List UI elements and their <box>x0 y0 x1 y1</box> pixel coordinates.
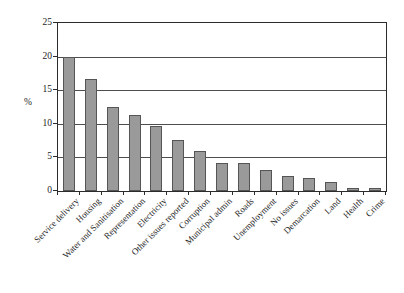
x-tick-mark <box>79 191 80 195</box>
y-tick-label: 10 <box>34 118 52 128</box>
x-tick-mark <box>298 191 299 195</box>
bar <box>85 79 97 191</box>
y-tick-label: 20 <box>34 51 52 61</box>
bar <box>238 163 250 191</box>
x-axis-category-labels: Service deliveryHousingWater and Sanitis… <box>0 190 404 293</box>
x-tick-mark <box>188 191 189 195</box>
bar <box>150 126 162 191</box>
bar <box>303 178 315 191</box>
x-tick-mark <box>254 191 255 195</box>
x-tick-mark <box>232 191 233 195</box>
x-category-label: Health <box>341 196 365 220</box>
y-tick-label: 25 <box>34 17 52 27</box>
x-tick-mark <box>341 191 342 195</box>
x-tick-mark <box>144 191 145 195</box>
x-tick-mark <box>166 191 167 195</box>
y-tick-label: 15 <box>34 84 52 94</box>
x-tick-mark <box>385 191 386 195</box>
y-axis-tick-labels: 0510152025 <box>34 22 52 190</box>
y-tick-mark <box>53 156 57 157</box>
bar <box>63 57 75 191</box>
x-tick-mark <box>101 191 102 195</box>
x-tick-mark <box>363 191 364 195</box>
x-tick-mark <box>319 191 320 195</box>
x-category-label: Land <box>323 196 343 216</box>
x-category-label: Crime <box>364 196 387 219</box>
bar <box>282 176 294 191</box>
plot-area <box>57 22 387 192</box>
x-category-label: Service delivery <box>32 196 81 245</box>
bar <box>129 115 141 191</box>
y-tick-mark <box>53 22 57 23</box>
bar <box>194 151 206 191</box>
x-tick-mark <box>276 191 277 195</box>
x-tick-mark <box>123 191 124 195</box>
x-tick-mark <box>210 191 211 195</box>
y-tick-mark <box>53 56 57 57</box>
bar <box>172 140 184 191</box>
y-tick-mark <box>53 123 57 124</box>
y-tick-label: 5 <box>34 151 52 161</box>
x-tick-mark <box>57 191 58 195</box>
bar <box>260 170 272 192</box>
bar <box>107 107 119 191</box>
bar-chart: 0510152025 % Service deliveryHousingWate… <box>0 0 404 293</box>
y-axis-title: % <box>24 97 32 107</box>
bars-layer <box>58 23 386 191</box>
y-tick-mark <box>53 89 57 90</box>
bar <box>216 163 228 191</box>
